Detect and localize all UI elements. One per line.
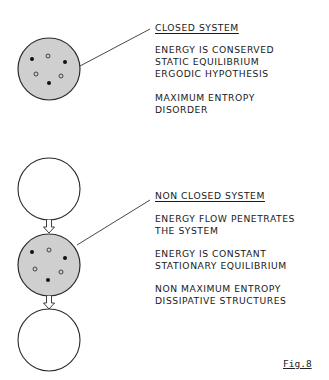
output-circle: [18, 309, 80, 371]
closed-system-line: MAXIMUM ENTROPY: [155, 92, 255, 104]
closed-system-line: DISORDER: [155, 104, 208, 116]
figure-label: Fig.8: [283, 358, 312, 369]
closed-system-title: CLOSED SYSTEM: [155, 22, 239, 34]
non-closed-system-line: ENERGY FLOW PENETRATES: [155, 213, 295, 225]
non-closed-system-title: NON CLOSED SYSTEM: [155, 190, 265, 202]
non-closed-system-line: ENERGY IS CONSTANT: [155, 248, 266, 260]
non-closed-system-line: NON MAXIMUM ENTROPY: [155, 283, 281, 295]
non-closed-system-line: STATIONARY EQUILIBRIUM: [155, 260, 287, 272]
closed-system-line: STATIC EQUILIBRIUM: [155, 56, 259, 68]
closed-system-line: ENERGY IS CONSERVED: [155, 44, 274, 56]
closed-system-leader-line: [80, 29, 150, 66]
flow-arrow-down-icon: [44, 220, 55, 233]
closed-system-line: ERGODIC HYPOTHESIS: [155, 68, 269, 80]
flow-arrow-down-icon: [44, 296, 55, 309]
input-circle: [18, 158, 80, 220]
non-closed-system-line: THE SYSTEM: [155, 225, 218, 237]
closed-system-circle: [18, 38, 80, 100]
non-closed-system-leader-line: [77, 200, 150, 245]
non-closed-system-line: DISSIPATIVE STRUCTURES: [155, 295, 286, 307]
non-closed-system-circle: [18, 234, 80, 296]
